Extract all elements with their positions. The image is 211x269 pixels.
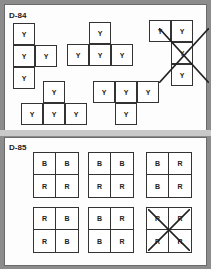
square-quadrant: R [34,230,56,252]
color-square: RRRR [146,207,192,253]
square-quadrant: R [111,175,133,197]
color-square: BBRR [88,152,134,198]
net-cell: Y [35,45,57,67]
net-cell: Y [93,81,115,103]
net-cell: Y [89,22,111,44]
square-quadrant: R [169,153,191,175]
panel-divider [0,130,211,136]
square-quadrant: B [147,153,169,175]
net-cell: Y [67,44,89,66]
net-cell: Y [171,42,193,64]
square-quadrant: R [34,175,56,197]
net-cell: Y [89,44,111,66]
square-quadrant: R [147,208,169,230]
square-quadrant: B [111,153,133,175]
square-quadrant: B [56,230,78,252]
net-cell: Y [43,103,65,125]
square-quadrant: B [89,230,111,252]
square-quadrant: R [56,175,78,197]
net-cell: Y [43,81,65,103]
square-quadrant: B [56,153,78,175]
net-cell: Y [13,23,35,45]
net-cell: Y [13,67,35,89]
square-quadrant: R [169,230,191,252]
square-quadrant: B [34,153,56,175]
color-square: BRBR [146,152,192,198]
color-square: BBRR [33,152,79,198]
panel-label-d85: D-85 [9,143,26,152]
color-square: BRBR [88,207,134,253]
net-cell: Y [149,20,171,42]
square-quadrant: R [34,208,56,230]
net-cell: Y [13,45,35,67]
net-cell: Y [115,103,137,125]
net-cell: Y [171,64,193,86]
net-cell: Y [111,44,133,66]
square-quadrant: R [111,230,133,252]
square-quadrant: R [169,175,191,197]
net-cell: Y [115,81,137,103]
square-quadrant: R [147,230,169,252]
net-cell: Y [137,81,159,103]
square-quadrant: B [89,208,111,230]
square-quadrant: B [56,208,78,230]
net-cell: Y [65,103,87,125]
square-quadrant: R [89,175,111,197]
net-cell: Y [21,103,43,125]
square-quadrant: B [89,153,111,175]
net-cell: Y [171,20,193,42]
square-quadrant: B [147,175,169,197]
color-square: RBRB [33,207,79,253]
square-quadrant: R [111,208,133,230]
panel-label-d84: D-84 [9,11,26,20]
square-quadrant: R [169,208,191,230]
